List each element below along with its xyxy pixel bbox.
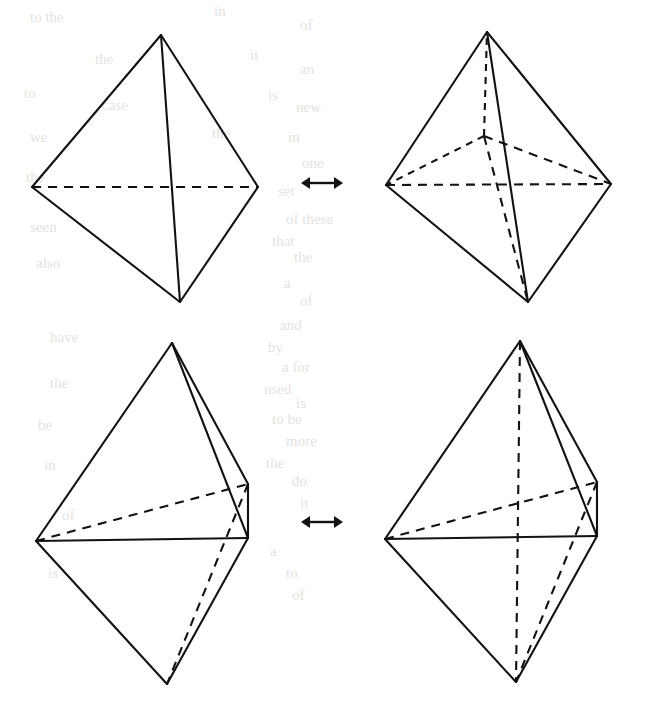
bleed-through-text: more [286, 433, 317, 449]
bleed-through-text: set [278, 183, 295, 199]
bleed-through-text: that [272, 233, 295, 249]
bleed-through-text: is [48, 565, 58, 581]
bleed-through-text: to [286, 565, 298, 581]
bleed-through-text: seen [30, 219, 57, 235]
bleed-through-text: an [300, 61, 315, 77]
bleed-through-text: in [214, 3, 226, 19]
figure-root: to theinoftheitantocaseisnewwetheinoneth… [0, 0, 647, 723]
tetrahedron-figure-canvas: to theinoftheitantocaseisnewwetheinoneth… [0, 0, 647, 723]
bleed-through-text: is [268, 87, 278, 103]
bleed-through-text: of these [286, 211, 333, 227]
bleed-through-text: the [294, 249, 313, 265]
bleed-through-text: of [62, 507, 75, 523]
bleed-through-text: be [38, 417, 53, 433]
bleed-through-text: to be [272, 411, 302, 427]
bleed-through-text: also [36, 255, 60, 271]
bleed-through-text: the [50, 375, 69, 391]
bleed-through-text: to [24, 85, 36, 101]
bleed-through-text: in [44, 457, 56, 473]
bleed-through-text: and [280, 317, 302, 333]
bleed-through-text: the [95, 51, 114, 67]
bleed-through-text: is [296, 395, 306, 411]
bleed-through-text: one [302, 155, 324, 171]
bleed-through-text: of [300, 293, 313, 309]
bleed-through-text: to the [30, 9, 64, 25]
bleed-through-text: we [30, 129, 48, 145]
bleed-through-text: a for [282, 359, 310, 375]
bleed-through-text: it [300, 495, 309, 511]
bleed-through-text: do [292, 473, 307, 489]
bleed-through-text: of [292, 587, 305, 603]
bleed-through-text: used [264, 381, 292, 397]
bleed-through-text: a [284, 275, 291, 291]
bleed-through-text: a [270, 543, 277, 559]
bleed-through-text: new [296, 99, 321, 115]
bleed-through-text: in [288, 129, 300, 145]
bleed-through-text: of [300, 17, 313, 33]
bleed-through-text: have [50, 329, 79, 345]
bleed-through-text: by [268, 339, 284, 355]
bleed-through-text: it [250, 47, 259, 63]
bleed-through-text: the [266, 455, 285, 471]
